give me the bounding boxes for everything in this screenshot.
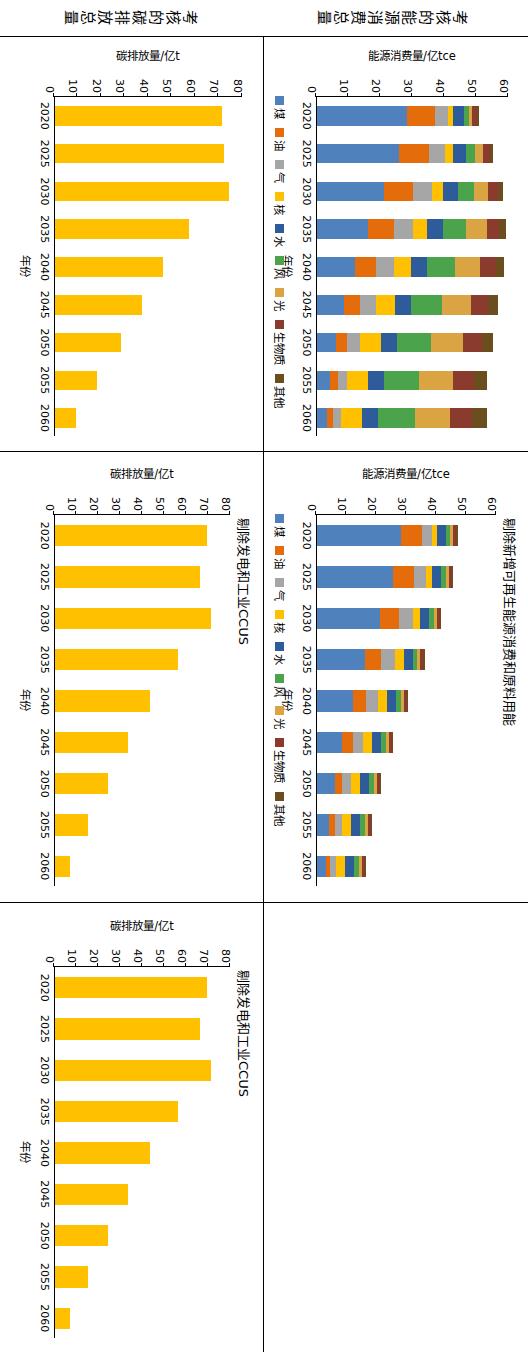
row-label-char: 碳 [130,0,147,36]
y-axis-tick-mark [124,93,125,97]
panel-divider-vertical-2 [0,902,528,903]
y-axis-tick-mark [194,93,195,97]
x-axis-tick-label: 2060 [300,404,313,432]
bar-segment [474,182,488,202]
legend-item: 风 [272,674,288,697]
x-axis-tick-label: 2060 [38,852,51,880]
x-axis-tick-label: 2035 [300,215,313,243]
legend-item: 生物质 [272,320,288,365]
chart-energy-total: 0102030405060能源消费量/亿tce20202025203020352… [270,40,522,446]
legend-label: 其他 [272,386,288,408]
bar-segment [317,814,329,835]
bar-segment [496,257,504,277]
bar-segment [394,257,412,277]
x-axis-tick-label: 2050 [38,1222,51,1250]
bar-segment [376,257,394,277]
x-axis-tick-label: 2055 [38,366,51,394]
bar-segment [413,608,421,629]
x-axis-tick-label: 2045 [38,291,51,319]
y-axis-tick-mark [375,511,376,515]
bar-segment [347,371,368,391]
bar-segment [317,566,394,587]
y-axis-tick-mark [405,511,406,515]
legend-item: 气 [272,578,288,601]
bar [317,295,498,315]
y-axis-tick-mark [207,511,208,515]
rotated-figure: 考核的能源消费总量 考核的碳排放总量 0102030405060能源消费量/亿t… [0,0,528,1352]
bar-segment [445,144,453,164]
x-axis-tick-label: 2025 [38,563,51,591]
bar-segment [488,295,498,315]
y-axis-tick-mark [163,963,164,967]
y-axis-tick-mark [75,963,76,967]
y-axis-tick-mark [141,511,142,515]
legend-label: 核 [272,622,288,633]
bar [55,608,211,629]
bar-segment [380,773,382,794]
bar-segment [317,257,355,277]
bar [55,690,150,711]
bar-segment [466,144,476,164]
bar-segment [353,690,367,711]
bar [55,182,229,202]
bar-segment [442,295,471,315]
bar-segment [400,608,414,629]
bar-segment [337,856,346,877]
bar [317,649,425,670]
bar-segment [433,566,442,587]
bar [55,1184,128,1205]
bar [55,977,207,998]
legend-swatch [276,320,285,329]
x-axis-tick-label: 2060 [300,852,313,880]
bar-segment [362,408,378,428]
legend-swatch [276,160,285,169]
x-axis-tick-label: 2030 [300,604,313,632]
bar [55,1308,70,1329]
x-axis-tick-label: 2045 [38,1180,51,1208]
bar-segment [365,856,367,877]
legend-item: 生物质 [272,738,288,783]
bar-segment [474,371,487,391]
legend-swatch [276,578,285,587]
bar [55,1225,108,1246]
bar-segment [397,333,431,353]
panel-divider-horizontal [263,36,264,1352]
legend-item: 水 [272,642,288,665]
bar-segment [317,525,401,546]
legend-item: 气 [272,160,288,183]
bar-segment [367,690,379,711]
x-axis-tick-label: 2055 [300,811,313,839]
bar-segment [364,732,373,753]
x-axis-tick-label: 2050 [300,770,313,798]
bar-segment [384,371,419,391]
legend-label: 煤 [272,108,288,119]
bar-segment [415,566,427,587]
bar [317,732,394,753]
bar-segment [317,219,368,239]
bar [317,257,504,277]
bar-segment [317,408,327,428]
legend-swatch [276,288,285,297]
bar [317,690,409,711]
bar-segment [411,295,441,315]
bar-segment [452,566,454,587]
y-axis-tick-mark [53,93,54,97]
y-axis-tick-mark [53,511,54,515]
bar-segment [424,649,426,670]
legend-item: 风 [272,256,288,279]
x-axis-title: 年份 [18,689,34,711]
y-axis-tick-mark [185,511,186,515]
bar-segment [335,814,343,835]
legend-label: 水 [272,236,288,247]
bar-segment [353,732,364,753]
legend-label: 油 [272,558,288,569]
legend-swatch [276,374,285,383]
x-axis-tick-label: 2035 [38,1098,51,1126]
bar-segment [355,257,376,277]
y-axis-tick-mark [315,93,316,97]
x-axis-tick-label: 2050 [38,770,51,798]
legend-label: 煤 [272,526,288,537]
bar [317,106,479,126]
bar-segment [499,219,505,239]
bar [317,408,487,428]
